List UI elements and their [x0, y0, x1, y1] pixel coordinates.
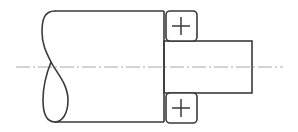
shaft-drawing	[0, 0, 298, 132]
marker-top	[166, 11, 197, 41]
drawing-canvas	[0, 0, 298, 132]
marker-bottom	[166, 93, 197, 123]
